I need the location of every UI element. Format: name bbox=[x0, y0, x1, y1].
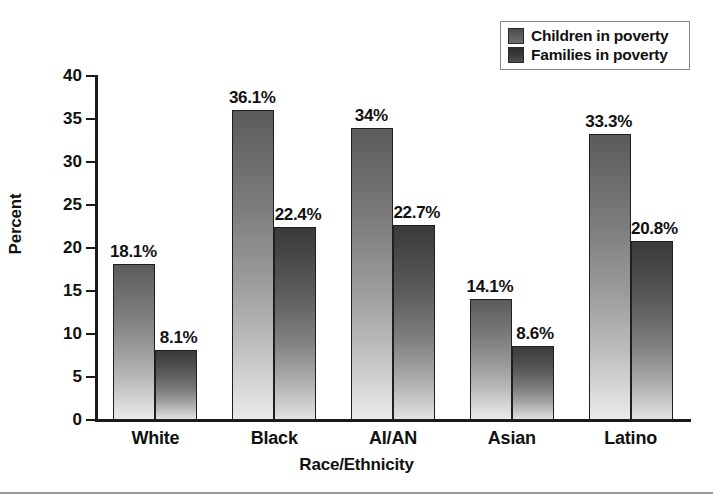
y-axis-tick-mark bbox=[86, 290, 96, 292]
chart-legend: Children in povertyFamilies in poverty bbox=[500, 21, 690, 70]
category-label-white: White bbox=[131, 428, 179, 449]
bar-value-label: 34% bbox=[355, 106, 388, 126]
y-axis-tick-mark bbox=[86, 161, 96, 163]
y-axis-tick-label: 10 bbox=[46, 324, 82, 344]
bar-group: 18.1%8.1% bbox=[113, 76, 197, 420]
bar-white-series-2[interactable]: 8.1% bbox=[155, 350, 197, 420]
y-axis-title: Percent bbox=[6, 164, 26, 284]
bar-group: 14.1%8.6% bbox=[470, 76, 554, 420]
bar-group: 36.1%22.4% bbox=[232, 76, 316, 420]
legend-swatch-icon bbox=[508, 47, 524, 63]
bar-value-label: 33.3% bbox=[585, 112, 632, 132]
y-axis-tick-label: 35 bbox=[46, 109, 82, 129]
legend-label: Families in poverty bbox=[531, 46, 668, 64]
plot-area: 18.1%8.1%36.1%22.4%34%22.7%14.1%8.6%33.3… bbox=[96, 76, 690, 420]
bar-black-series-1[interactable]: 36.1% bbox=[232, 110, 274, 420]
y-axis-tick-mark bbox=[86, 333, 96, 335]
bar-asian-series-1[interactable]: 14.1% bbox=[470, 299, 512, 420]
category-label-black: Black bbox=[251, 428, 298, 449]
y-axis-tick-label: 25 bbox=[46, 195, 82, 215]
y-axis-tick-label: 20 bbox=[46, 238, 82, 258]
y-axis-tick-mark bbox=[86, 376, 96, 378]
y-axis-tick-label: 5 bbox=[46, 367, 82, 387]
bar-value-label: 8.6% bbox=[516, 324, 554, 344]
y-axis-tick-mark bbox=[86, 247, 96, 249]
bar-latino-series-2[interactable]: 20.8% bbox=[631, 241, 673, 420]
y-axis-tick-mark bbox=[86, 419, 96, 421]
legend-item-1[interactable]: Children in poverty bbox=[508, 26, 681, 45]
bar-asian-series-2[interactable]: 8.6% bbox=[512, 346, 554, 420]
bar-white-series-1[interactable]: 18.1% bbox=[113, 264, 155, 420]
bottom-divider bbox=[0, 492, 713, 494]
y-axis-tick-label: 30 bbox=[46, 152, 82, 172]
bar-group: 33.3%20.8% bbox=[589, 76, 673, 420]
y-axis-tick-label: 15 bbox=[46, 281, 82, 301]
category-label-ai-an: AI/AN bbox=[369, 428, 417, 449]
legend-item-2[interactable]: Families in poverty bbox=[508, 45, 681, 64]
bar-value-label: 14.1% bbox=[467, 277, 514, 297]
legend-label: Children in poverty bbox=[531, 27, 668, 45]
bar-chart-figure: 0510152025303540 Percent 18.1%8.1%36.1%2… bbox=[0, 0, 713, 502]
y-axis-tick-labels: 0510152025303540 bbox=[36, 0, 82, 502]
bar-value-label: 8.1% bbox=[160, 328, 198, 348]
bar-ai-an-series-2[interactable]: 22.7% bbox=[393, 225, 435, 420]
bar-black-series-2[interactable]: 22.4% bbox=[274, 227, 316, 420]
category-label-latino: Latino bbox=[604, 428, 657, 449]
x-axis-title: Race/Ethnicity bbox=[0, 455, 713, 475]
y-axis-tick-label: 40 bbox=[46, 66, 82, 86]
bar-ai-an-series-1[interactable]: 34% bbox=[351, 128, 393, 420]
y-axis-tick-label: 0 bbox=[46, 410, 82, 430]
bar-value-label: 20.8% bbox=[631, 219, 678, 239]
category-label-asian: Asian bbox=[488, 428, 536, 449]
bar-value-label: 18.1% bbox=[110, 242, 157, 262]
bar-value-label: 22.4% bbox=[275, 205, 322, 225]
bar-value-label: 22.7% bbox=[393, 203, 440, 223]
bar-value-label: 36.1% bbox=[229, 88, 276, 108]
bar-latino-series-1[interactable]: 33.3% bbox=[589, 134, 631, 420]
y-axis-tick-mark bbox=[86, 75, 96, 77]
y-axis-tick-mark bbox=[86, 118, 96, 120]
y-axis-tick-mark bbox=[86, 204, 96, 206]
bar-group: 34%22.7% bbox=[351, 76, 435, 420]
legend-swatch-icon bbox=[508, 28, 524, 44]
